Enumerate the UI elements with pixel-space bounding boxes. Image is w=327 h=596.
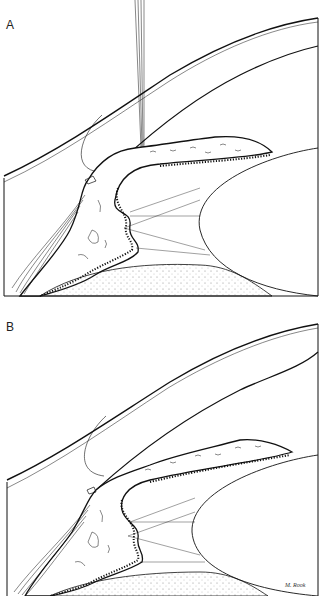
iris <box>25 440 292 596</box>
laser-beam-icon <box>135 0 144 148</box>
panel-a: A <box>0 0 327 300</box>
panel-b: B <box>0 300 327 596</box>
panel-b-illustration <box>0 300 327 596</box>
artist-signature: M. Rook <box>285 582 305 588</box>
panel-a-illustration <box>0 0 327 300</box>
